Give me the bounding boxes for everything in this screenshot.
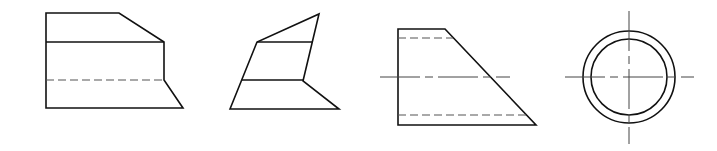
- figure-view-4: [565, 11, 694, 144]
- outline-upper: [46, 13, 183, 108]
- figure-view-2: [230, 14, 339, 109]
- figure-view-3: [380, 29, 536, 125]
- figure-view-1: [46, 13, 183, 108]
- drawing-canvas: [0, 0, 717, 151]
- outline: [230, 14, 339, 109]
